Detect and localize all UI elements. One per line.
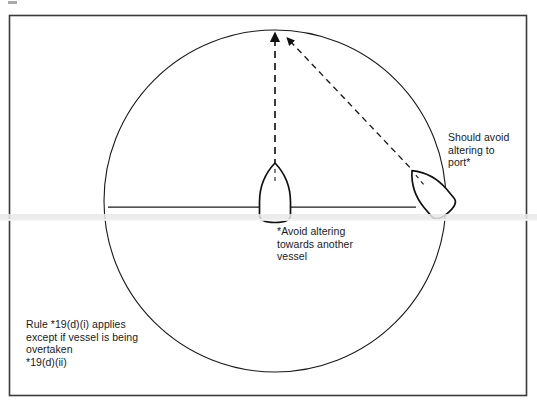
figure-root: Should avoid altering to port* *Avoid al…	[0, 0, 537, 411]
starboard-vessel-annotation: Should avoid altering to port*	[448, 131, 534, 169]
center-vessel-annotation: *Avoid altering towards another vessel	[277, 225, 402, 263]
rule-reference-annotation: Rule *19(d)(i) applies except if vessel …	[26, 318, 211, 368]
